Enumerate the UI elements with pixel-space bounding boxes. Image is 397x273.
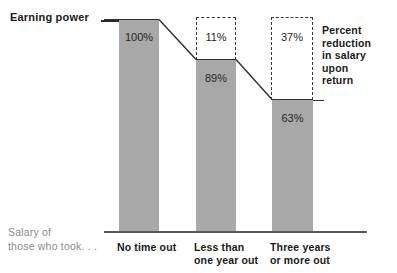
category-label-less-than-one-year-out-line-2: one year out — [194, 254, 258, 267]
baseline-top-extension-rule — [104, 19, 119, 21]
percent-reduction-note-line-1: Percent — [322, 24, 371, 37]
value-label-less-than-one-year-out: 89% — [196, 72, 236, 84]
reduction-label-less-than-one-year-out: 11% — [196, 31, 236, 43]
x-axis-line — [104, 231, 367, 233]
category-label-no-time-out: No time out — [117, 241, 176, 254]
chart-container: Earning power 100% 89% 63% 11% 37% Perce… — [0, 0, 397, 273]
bar-no-time-out — [119, 19, 159, 232]
value-label-three-years-or-more-out: 63% — [272, 112, 313, 124]
reduction-box-three-years-or-more — [271, 17, 313, 100]
category-label-three-years-or-more-out-line-2: or more out — [270, 254, 331, 267]
category-label-three-years-or-more-out-line-1: Three years — [270, 241, 331, 254]
bar-top-extension-rule — [313, 100, 324, 102]
percent-reduction-note-line-3: in salary — [322, 49, 371, 62]
category-label-three-years-or-more-out: Three years or more out — [270, 241, 331, 267]
salary-of-those-note: Salary of those who took. . . — [8, 225, 97, 253]
percent-reduction-note-line-4: upon — [322, 62, 371, 75]
category-label-less-than-one-year-out-line-1: Less than — [194, 241, 258, 254]
category-label-no-time-out-line-1: No time out — [117, 241, 176, 254]
category-label-less-than-one-year-out: Less than one year out — [194, 241, 258, 267]
reduction-label-three-years-or-more-out: 37% — [271, 31, 313, 43]
earning-power-label: Earning power — [10, 11, 89, 23]
percent-reduction-note: Percent reduction in salary upon return — [322, 24, 371, 87]
value-label-no-time-out: 100% — [119, 31, 159, 43]
salary-note-line-1: Salary of — [8, 225, 97, 239]
percent-reduction-note-line-5: return — [322, 74, 371, 87]
salary-note-line-2: those who took. . . — [8, 239, 97, 253]
percent-reduction-note-line-2: reduction — [322, 37, 371, 50]
bar-less-than-one-year-out — [196, 59, 236, 232]
